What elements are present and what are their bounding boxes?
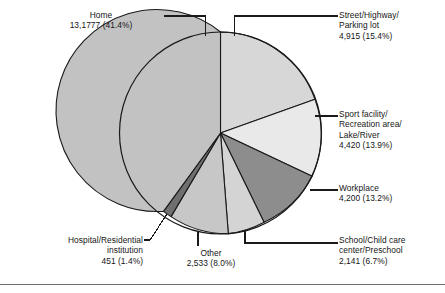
leader-line-hospital	[144, 214, 167, 240]
label-school-child-care-preschool: School/Child care center/Preschool 2,141…	[339, 235, 443, 266]
label-hospital-residential-institution: Hospital/Residential institution 451 (1.…	[14, 235, 143, 266]
pie-chart-figure: Home 13,1777 (41.4%) Street/Highway/ Par…	[0, 0, 445, 293]
label-home: Home 13,1777 (41.4%)	[38, 10, 164, 31]
label-other: Other 2,533 (8.0%)	[158, 248, 264, 269]
label-street-highway-parking-lot: Street/Highway/ Parking lot 4,915 (15.4%…	[339, 10, 443, 41]
label-workplace: Workplace 4,200 (13.2%)	[339, 183, 443, 204]
leader-line-street	[235, 16, 339, 36]
leader-line-school	[245, 231, 338, 243]
pie-slices	[56, 10, 321, 234]
label-sport-facility-recreation-lake-river: Sport facility/ Recreation area/ Lake/Ri…	[339, 109, 443, 151]
